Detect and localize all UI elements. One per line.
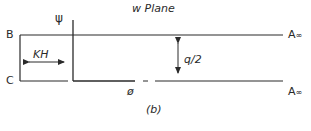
a-top-letter: A — [288, 28, 296, 41]
point-c-label: C — [6, 75, 14, 86]
infinity-subscript: ∞ — [296, 31, 303, 40]
a-bottom-letter: A — [288, 85, 296, 98]
kh-label: KH — [33, 49, 49, 60]
figure-caption: (b) — [146, 104, 162, 115]
a-infinity-bottom-label: A∞ — [288, 86, 302, 97]
plane-title: w Plane — [132, 3, 175, 14]
phi-label: ø — [127, 86, 134, 97]
psi-label: ψ — [55, 12, 63, 24]
q-half-label: q/2 — [184, 54, 202, 65]
infinity-subscript: ∞ — [296, 88, 303, 97]
a-infinity-top-label: A∞ — [288, 29, 302, 40]
w-plane-diagram: w Plane ψ B C KH q/2 A∞ A∞ ø (b) — [0, 0, 311, 131]
point-b-label: B — [6, 29, 14, 40]
